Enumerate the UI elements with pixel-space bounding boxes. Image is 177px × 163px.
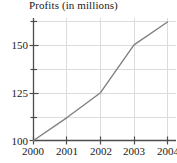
x-tick-label-2003: 2003	[117, 145, 151, 157]
horizontal-gridlines	[34, 22, 177, 118]
profits-line-chart: Profits (in millions)	[0, 0, 177, 163]
x-tick-label-2001: 2001	[50, 145, 84, 157]
y-tick-label-150: 150	[2, 39, 28, 51]
x-tick-label-2000: 2000	[16, 145, 50, 157]
x-tick-label-2002: 2002	[84, 145, 118, 157]
vertical-gridlines	[67, 18, 168, 141]
y-tick-label-125: 125	[2, 87, 28, 99]
x-tick-label-2004: 2004	[151, 145, 177, 157]
